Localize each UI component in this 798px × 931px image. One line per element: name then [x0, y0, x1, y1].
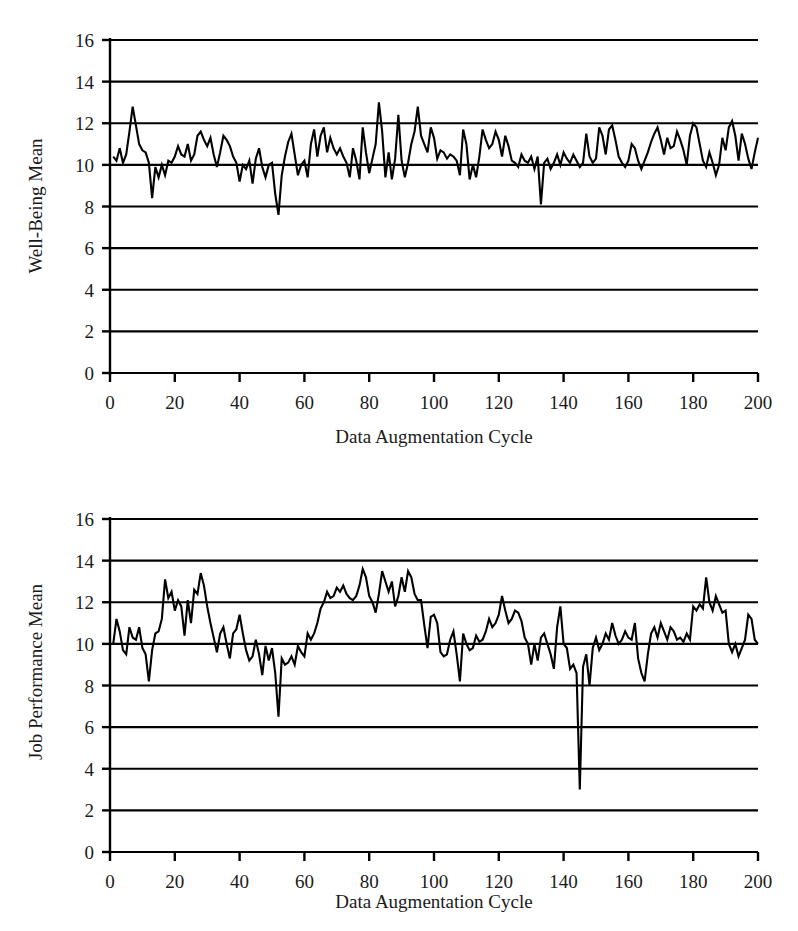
y-tick-label: 12: [75, 113, 94, 134]
x-tick-label: 140: [549, 392, 578, 413]
chart-background: [0, 466, 798, 931]
y-tick-label: 4: [85, 759, 95, 780]
y-tick-label: 12: [75, 592, 94, 613]
y-tick-label: 2: [85, 321, 95, 342]
x-axis-title: Data Augmentation Cycle: [335, 426, 532, 447]
x-tick-label: 100: [420, 871, 449, 892]
x-tick-label: 60: [295, 392, 314, 413]
well-being-plot: 0246810121416 02040608010012014016018020…: [0, 0, 798, 466]
x-tick-label: 120: [485, 392, 514, 413]
x-tick-label: 120: [485, 871, 514, 892]
chart-well-being: 0246810121416 02040608010012014016018020…: [0, 0, 798, 466]
y-tick-label: 0: [85, 363, 95, 384]
x-tick-label: 20: [165, 871, 184, 892]
x-tick-label: 200: [744, 392, 773, 413]
x-tick-label: 0: [105, 871, 115, 892]
x-tick-label: 80: [360, 871, 379, 892]
y-tick-label: 14: [75, 551, 95, 572]
figure-page: 0246810121416 02040608010012014016018020…: [0, 0, 798, 931]
y-tick-label: 14: [75, 72, 95, 93]
x-tick-label: 40: [230, 392, 249, 413]
y-tick-label: 8: [85, 197, 95, 218]
y-tick-label: 6: [85, 238, 95, 259]
y-tick-label: 2: [85, 800, 95, 821]
x-tick-label: 80: [360, 392, 379, 413]
y-tick-label: 4: [85, 280, 95, 301]
x-tick-label: 60: [295, 871, 314, 892]
y-tick-label: 6: [85, 717, 95, 738]
x-tick-label: 40: [230, 871, 249, 892]
x-tick-label: 160: [614, 871, 643, 892]
x-tick-label: 200: [744, 871, 773, 892]
y-tick-label: 16: [75, 30, 94, 51]
x-axis-title: Data Augmentation Cycle: [335, 891, 532, 912]
y-axis-title: Job Performance Mean: [25, 583, 46, 760]
y-tick-label: 0: [85, 842, 95, 863]
x-tick-label: 0: [105, 392, 115, 413]
x-tick-label: 140: [549, 871, 578, 892]
chart-job-performance: 0246810121416 02040608010012014016018020…: [0, 466, 798, 931]
y-tick-label: 16: [75, 509, 94, 530]
job-performance-plot: 0246810121416 02040608010012014016018020…: [0, 466, 798, 931]
x-tick-label: 180: [679, 871, 708, 892]
x-tick-label: 160: [614, 392, 643, 413]
y-tick-label: 10: [75, 634, 94, 655]
x-tick-label: 180: [679, 392, 708, 413]
y-tick-label: 8: [85, 676, 95, 697]
y-axis-title: Well-Being Mean: [25, 138, 46, 274]
x-tick-label: 100: [420, 392, 449, 413]
y-tick-label: 10: [75, 155, 94, 176]
x-tick-label: 20: [165, 392, 184, 413]
